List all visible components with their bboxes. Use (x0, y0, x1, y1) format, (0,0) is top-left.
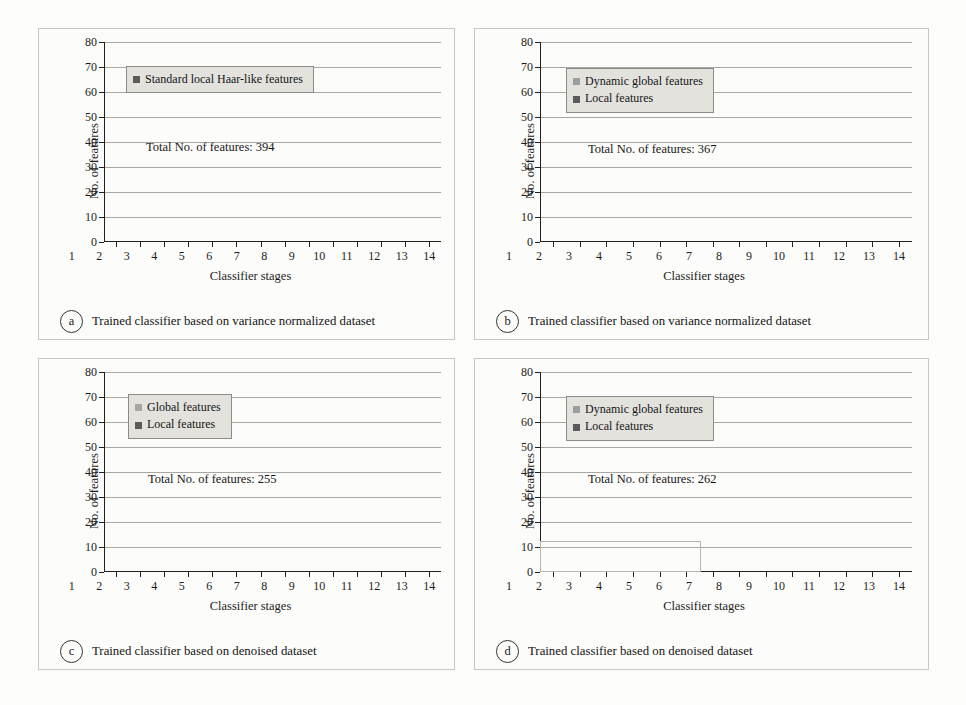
legend-label: Standard local Haar-like features (145, 71, 303, 88)
x-tick-label: 13 (388, 579, 416, 594)
x-tick-mark (429, 242, 430, 247)
x-tick-mark (381, 242, 382, 247)
x-tick-mark (333, 242, 334, 247)
y-tick-mark (535, 242, 540, 243)
x-tick-label: 2 (524, 579, 554, 594)
bar-column (417, 42, 441, 242)
x-tick-label: 4 (141, 579, 169, 594)
y-tick-label: 0 (527, 235, 533, 250)
legend-entry: Dynamic global features (573, 73, 703, 90)
x-tick-label: 10 (306, 249, 334, 264)
x-tick-mark (713, 242, 714, 247)
x-tick-mark (686, 572, 687, 577)
bar-column (886, 42, 913, 242)
panel-c-x-axis-line (104, 571, 441, 572)
y-tick-label: 30 (521, 160, 533, 175)
y-tick-label: 70 (521, 60, 533, 75)
x-tick-label: 13 (388, 249, 416, 264)
x-tick-label: 10 (764, 579, 794, 594)
panel-d-letter: d (496, 640, 519, 663)
x-tick-mark (872, 242, 873, 247)
x-tick-label: 9 (734, 249, 764, 264)
x-tick-mark (846, 572, 847, 577)
bar-column (540, 42, 567, 242)
legend-swatch-icon (133, 76, 140, 83)
bar-column (859, 42, 886, 242)
legend-entry: Global features (135, 399, 221, 416)
x-tick-label: 2 (86, 579, 114, 594)
y-tick-label: 10 (85, 210, 97, 225)
legend-entry: Local features (573, 418, 703, 435)
y-tick-label: 60 (85, 415, 97, 430)
panel-d-highlight-region (540, 541, 701, 572)
legend-label: Dynamic global features (585, 73, 703, 90)
x-tick-mark (381, 572, 382, 577)
bar-column (753, 42, 780, 242)
y-tick-mark (535, 572, 540, 573)
panel-a-x-axis-title: Classifier stages (58, 269, 443, 284)
x-tick-mark (261, 242, 262, 247)
bar-column (832, 372, 859, 572)
x-tick-mark (766, 572, 767, 577)
y-tick-label: 30 (521, 490, 533, 505)
x-tick-label: 11 (794, 579, 824, 594)
y-tick-label: 40 (521, 465, 533, 480)
x-tick-label: 13 (854, 249, 884, 264)
x-tick-mark (819, 242, 820, 247)
y-tick-label: 70 (85, 60, 97, 75)
y-tick-label: 50 (521, 440, 533, 455)
x-tick-mark (212, 242, 213, 247)
x-tick-mark (633, 572, 634, 577)
panel-b-x-axis-line (540, 241, 912, 242)
panel-c-x-axis-title: Classifier stages (58, 599, 443, 614)
legend-entry: Local features (573, 90, 703, 107)
legend-swatch-icon (135, 404, 142, 411)
x-tick-label: 5 (614, 249, 644, 264)
panel-d-caption: Trained classifier based on denoised dat… (528, 644, 752, 659)
bar-column (753, 372, 780, 572)
bar-column (104, 372, 128, 572)
x-tick-label: 6 (196, 579, 224, 594)
y-tick-label: 80 (85, 35, 97, 50)
panel-a-caption: Trained classifier based on variance nor… (92, 314, 375, 329)
y-tick-label: 20 (521, 515, 533, 530)
x-tick-mark (116, 242, 117, 247)
x-tick-label: 8 (704, 579, 734, 594)
panel-d-plot-area: No. of features 01020304050607080 Dynami… (494, 366, 914, 616)
x-tick-label: 14 (416, 579, 444, 594)
x-tick-label: 4 (584, 579, 614, 594)
panel-b-x-axis-title: Classifier stages (494, 269, 914, 284)
x-tick-label: 10 (764, 249, 794, 264)
x-tick-label: 7 (223, 579, 251, 594)
y-tick-label: 80 (521, 35, 533, 50)
legend-label: Global features (147, 399, 221, 416)
x-tick-mark (309, 572, 310, 577)
panel-c-x-tick-labels: 1234567891011121314 (58, 579, 443, 594)
x-tick-mark (140, 572, 141, 577)
x-tick-label: 6 (644, 249, 674, 264)
x-tick-mark (660, 572, 661, 577)
x-tick-label: 5 (168, 579, 196, 594)
legend-swatch-icon (135, 422, 142, 429)
x-tick-label: 3 (113, 579, 141, 594)
panel-b-axes: 01020304050607080 Dynamic global feature… (540, 42, 912, 242)
x-tick-mark (333, 572, 334, 577)
y-tick-label: 40 (521, 135, 533, 150)
bar-column (779, 42, 806, 242)
y-tick-label: 80 (85, 365, 97, 380)
panel-d-total-label: Total No. of features: 262 (588, 472, 717, 487)
x-tick-label: 10 (306, 579, 334, 594)
x-tick-mark (633, 242, 634, 247)
panel-d-x-tick-labels: 1234567891011121314 (494, 579, 914, 594)
panel-a-legend: Standard local Haar-like features (126, 66, 314, 93)
y-tick-label: 0 (527, 565, 533, 580)
panel-c-y-axis-line (104, 372, 105, 572)
x-tick-mark (872, 572, 873, 577)
x-tick-mark (357, 572, 358, 577)
panel-a-x-tick-labels: 1234567891011121314 (58, 249, 443, 264)
x-tick-label: 9 (734, 579, 764, 594)
legend-swatch-icon (573, 78, 580, 85)
x-tick-label: 7 (674, 579, 704, 594)
panel-a-axes: 01020304050607080 Standard local Haar-li… (104, 42, 441, 242)
panel-a-x-axis-line (104, 241, 441, 242)
